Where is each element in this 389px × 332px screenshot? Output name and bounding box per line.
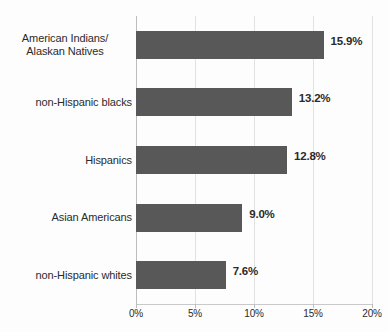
- cut-off-chart-title: ​: [0, 0, 389, 14]
- value-axis-tick-label: 0%: [129, 308, 143, 319]
- category-label-line: Asian Americans: [52, 211, 132, 223]
- category-label-line: Hispanics: [85, 154, 132, 166]
- gridline: [372, 16, 373, 304]
- category-label-line: American Indians/: [22, 32, 108, 44]
- bar-row: 13.2%: [136, 88, 372, 116]
- bar: [136, 146, 287, 174]
- value-axis-tick-label: 5%: [188, 308, 202, 319]
- category-label: non-Hispanic blacks: [4, 96, 132, 109]
- category-label: non-Hispanic whites: [4, 269, 132, 282]
- value-axis-tick-label: 20%: [362, 308, 381, 319]
- value-axis-tick-label: 15%: [303, 308, 322, 319]
- bar-value-label: 15.9%: [331, 35, 363, 47]
- category-label-line: Alaskan Natives: [26, 45, 103, 57]
- category-axis-labels: American Indians/Alaskan Nativesnon-Hisp…: [0, 16, 132, 304]
- category-label-line: non-Hispanic blacks: [35, 96, 132, 108]
- bar: [136, 261, 226, 289]
- category-label: American Indians/Alaskan Natives: [0, 32, 132, 58]
- category-label: Asian Americans: [4, 211, 132, 224]
- bar-row: 9.0%: [136, 204, 372, 232]
- category-label-line: non-Hispanic whites: [35, 269, 132, 281]
- plot-area: 15.9%13.2%12.8%9.0%7.6%: [136, 16, 372, 304]
- value-axis-tick-label: 10%: [244, 308, 263, 319]
- bar: [136, 31, 324, 59]
- value-axis-labels: 0%5%10%15%20%: [136, 308, 372, 326]
- bar-row: 12.8%: [136, 146, 372, 174]
- bar-value-label: 13.2%: [299, 92, 331, 104]
- category-label: Hispanics: [4, 154, 132, 167]
- bar-value-label: 12.8%: [294, 150, 326, 162]
- bar-value-label: 9.0%: [249, 208, 274, 220]
- bar-chart: ​ American Indians/Alaskan Nativesnon-Hi…: [0, 0, 389, 332]
- bar-value-label: 7.6%: [233, 265, 258, 277]
- bar-row: 7.6%: [136, 261, 372, 289]
- bar: [136, 204, 242, 232]
- bar-row: 15.9%: [136, 31, 372, 59]
- bar: [136, 88, 292, 116]
